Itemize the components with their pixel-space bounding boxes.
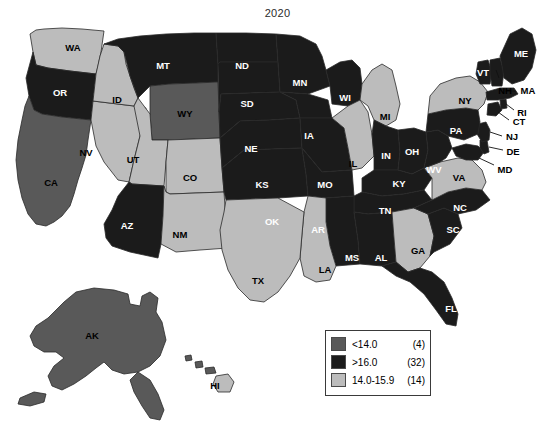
state-IN[interactable]: [372, 120, 400, 170]
state-OH[interactable]: [398, 128, 428, 174]
leader-line-NJ: [490, 132, 502, 136]
state-SC[interactable]: [428, 208, 462, 256]
state-TX[interactable]: [220, 198, 304, 302]
state-FL[interactable]: [382, 262, 458, 326]
legend-count: (14): [407, 375, 425, 386]
state-label-NJ: NJ: [506, 131, 518, 142]
leader-line-MD: [479, 158, 494, 165]
state-ME[interactable]: [500, 28, 536, 84]
state-AK-panhandle[interactable]: [130, 372, 164, 420]
state-WY[interactable]: [150, 82, 220, 140]
legend-row[interactable]: >16.0 (32): [331, 353, 425, 371]
state-HI-bigisland[interactable]: [213, 374, 234, 392]
state-AK[interactable]: [30, 288, 166, 390]
state-CO[interactable]: [166, 138, 224, 194]
legend-count: (4): [413, 339, 425, 350]
us-choropleth-map: WA OR CA NV ID MT WY UT AZ CO NM ND SD N…: [0, 0, 555, 438]
state-GA[interactable]: [392, 208, 434, 272]
state-label-RI: RI: [517, 107, 527, 118]
legend-swatch-high: [331, 355, 346, 369]
leader-line-DE: [489, 147, 503, 150]
legend-label: 14.0-15.9: [352, 375, 407, 386]
state-label-MA: MA: [521, 85, 536, 96]
legend-swatch-low: [331, 337, 346, 351]
legend-label: >16.0: [352, 357, 407, 368]
state-AZ[interactable]: [104, 182, 164, 258]
state-HI-kauai[interactable]: [185, 355, 192, 361]
state-label-CT: CT: [513, 116, 526, 127]
legend-row[interactable]: 14.0-15.9 (14): [331, 371, 425, 389]
state-HI-maui[interactable]: [205, 367, 216, 374]
state-WI[interactable]: [326, 60, 362, 106]
legend-count: (32): [407, 357, 425, 368]
state-AL[interactable]: [354, 212, 396, 266]
state-AK-islands[interactable]: [18, 392, 46, 406]
state-MA[interactable]: [486, 88, 518, 100]
map-legend: <14.0 (4) >16.0 (32) 14.0-15.9 (14): [325, 330, 431, 396]
state-label-MD: MD: [498, 164, 513, 175]
legend-row[interactable]: <14.0 (4): [331, 335, 425, 353]
state-RI[interactable]: [500, 99, 507, 109]
state-MN[interactable]: [276, 34, 330, 94]
legend-label: <14.0: [352, 339, 413, 350]
state-CT[interactable]: [487, 102, 502, 116]
state-HI-oahu[interactable]: [195, 361, 203, 368]
state-label-DE: DE: [506, 146, 519, 157]
leader-line-CT: [498, 112, 509, 120]
state-ND[interactable]: [216, 33, 278, 64]
state-NM[interactable]: [161, 186, 228, 252]
legend-swatch-mid: [331, 373, 346, 387]
